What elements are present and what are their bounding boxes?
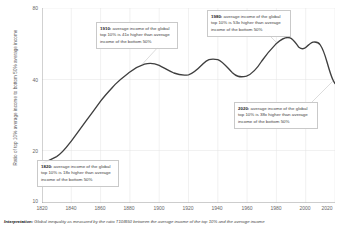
annotation-1910-text: average income of the global top 10% is … [100,26,170,44]
y-tick-40: 40 [18,77,38,83]
annotation-1820-text: average income of the global top 10% is … [41,164,111,182]
annotation-1980-year: 1980: [211,14,222,19]
annotation-1910: 1910: average income of the global top 1… [96,22,178,49]
annotation-1980-text: average income of the global top 10% is … [211,14,281,32]
x-tick-1940: 1940 [200,205,234,211]
annotation-1820: 1820: average income of the global top 1… [37,160,119,187]
y-tick-20: 20 [18,148,38,154]
annotation-1980: 1980: average income of the global top 1… [207,10,291,37]
annotation-2020: 2020: average income of the global top 1… [234,102,318,129]
y-tick-80: 80 [18,5,38,11]
x-tick-2020: 2020 [310,205,344,211]
y-axis-label: Ratio of top 10% average income to botto… [13,5,18,190]
y-tick-10: 10 [18,198,38,204]
interpretation-footer: Interpretation: Global inequality as mea… [4,219,346,225]
interpretation-label: Interpretation: [4,219,33,224]
annotation-2020-year: 2020: [238,106,249,111]
chart-figure: Ratio of top 10% average income to botto… [0,0,348,234]
annotation-1910-year: 1910: [100,26,111,31]
interpretation-text: Global inequality as measured by the rat… [33,219,264,224]
annotation-2020-text: average income of the global top 10% is … [238,106,308,124]
annotation-1820-year: 1820: [41,164,52,169]
x-tick-1880: 1880 [112,205,146,211]
